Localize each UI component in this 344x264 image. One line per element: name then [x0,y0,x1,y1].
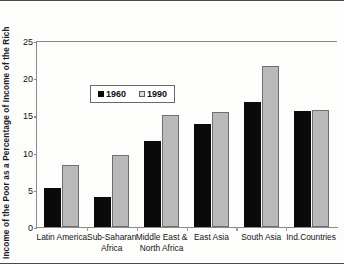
x-category-label: Latin America [34,232,90,243]
x-category-label-line2: Africa [84,243,140,254]
bar-1990 [112,155,129,227]
x-tick-separator [137,227,138,231]
bars-container [37,41,336,227]
legend-label-1960: 1960 [106,89,126,99]
bar-1960 [194,124,211,227]
bar-group [236,41,286,227]
x-category-label: Ind.Countries [283,232,339,243]
x-tick-separator [87,227,88,231]
black-square-icon [98,91,104,97]
x-category-label-line1: Middle East & [136,232,188,242]
chart-legend: 1960 1990 [90,85,175,103]
x-tick-separator [286,227,287,231]
y-axis-title-container: Income of the Poor as a Percentage of In… [0,1,16,264]
bar-1960 [44,188,61,227]
bar-1990 [262,66,279,227]
light-square-icon [139,91,145,97]
legend-label-1990: 1990 [147,89,167,99]
bar-1960 [294,111,311,227]
bar-1960 [94,197,111,227]
x-category-label-line1: Latin America [37,232,88,242]
x-category-label: East Asia [184,232,240,243]
legend-item-1990: 1990 [139,89,167,99]
x-category-label-line1: Ind.Countries [286,232,336,242]
x-category-label-line2: North Africa [134,243,190,254]
x-category-label: Middle East &North Africa [134,232,190,253]
chart-figure: Income of the Poor as a Percentage of In… [0,0,344,264]
bar-group [187,41,237,227]
bar-1990 [62,165,79,227]
x-category-label-line1: Sub-Saharan [87,232,136,242]
bar-group [286,41,336,227]
bar-group [37,41,87,227]
bar-group [137,41,187,227]
bar-1990 [162,115,179,227]
x-category-label: Sub-SaharanAfrica [84,232,140,253]
x-tick-separator [236,227,237,231]
bar-group [87,41,137,227]
bar-1990 [312,110,329,227]
legend-item-1960: 1960 [98,89,126,99]
y-axis-title: Income of the Poor as a Percentage of In… [2,26,11,259]
bar-1960 [144,141,161,227]
bar-1990 [212,112,229,227]
x-tick-separator [187,227,188,231]
x-category-label-line1: East Asia [194,232,229,242]
bar-1960 [244,102,261,227]
x-category-label-line1: South Asia [241,232,281,242]
x-category-label: South Asia [233,232,289,243]
